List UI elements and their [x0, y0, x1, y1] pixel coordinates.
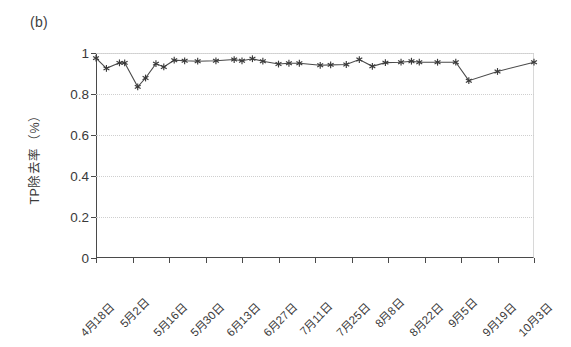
data-point-marker — [369, 63, 375, 70]
data-point-marker — [161, 64, 167, 71]
y-axis-title: TP除去率（%） — [24, 108, 43, 204]
y-tick-label: 0.8 — [70, 87, 89, 102]
x-tick-mark — [498, 258, 499, 263]
x-tick-label: 10月3日 — [543, 270, 571, 310]
panel-label: (b) — [30, 14, 48, 30]
x-tick-label-text: 5月16日 — [149, 299, 189, 339]
y-tick-label: 1 — [81, 46, 89, 61]
x-tick-mark — [534, 258, 535, 263]
x-tick-mark — [96, 258, 97, 263]
y-tick-label: 0.6 — [70, 128, 89, 143]
y-axis-title-wrap: TP除去率（%） — [22, 52, 44, 260]
y-tick-label: 0.4 — [70, 169, 89, 184]
x-tick-mark — [388, 258, 389, 263]
y-tick-label: 0.2 — [70, 210, 89, 225]
x-tick-mark — [279, 258, 280, 263]
data-series-svg — [96, 53, 534, 258]
x-tick-mark — [206, 258, 207, 263]
x-tick-label-text: 4月18日 — [76, 299, 116, 339]
x-tick-mark — [169, 258, 170, 263]
x-tick-mark — [425, 258, 426, 263]
x-tick-mark — [315, 258, 316, 263]
data-point-marker — [356, 56, 362, 63]
x-tick-label-text: 8月22日 — [405, 299, 445, 339]
x-tick-label-text: 9月19日 — [478, 299, 518, 339]
x-tick-mark — [242, 258, 243, 263]
plot-area: 00.20.40.60.81 4月18日5月2日5月16日5月30日6月13日6… — [96, 53, 534, 258]
figure-panel-b: (b) TP除去率（%） 00.20.40.60.81 4月18日5月2日5月1… — [0, 0, 571, 347]
x-tick-mark — [461, 258, 462, 263]
x-tick-mark — [352, 258, 353, 263]
y-tick-label: 0 — [81, 251, 89, 266]
x-tick-label: 9月5日 — [468, 270, 504, 306]
x-tick-label: 8月8日 — [395, 270, 431, 306]
x-tick-label: 5月2日 — [140, 270, 176, 306]
x-tick-mark — [133, 258, 134, 263]
